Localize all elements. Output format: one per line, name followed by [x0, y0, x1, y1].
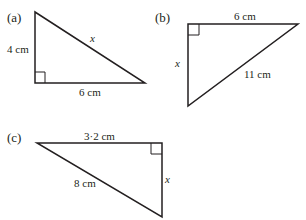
side-label-c-hypotenuse: 8 cm [74, 178, 96, 189]
side-label-c-vertical: x [165, 174, 170, 185]
part-label-c: (c) [7, 131, 21, 144]
side-label-b-hypotenuse: 11 cm [244, 69, 271, 80]
right-angle-marker-c [151, 143, 162, 154]
triangle-c [37, 143, 162, 217]
side-label-c-horizontal: 3·2 cm [84, 131, 115, 142]
side-label-a-horizontal: 6 cm [79, 87, 101, 98]
triangles-diagram [0, 0, 306, 220]
side-label-b-horizontal: 6 cm [234, 11, 256, 22]
triangle-b [188, 24, 298, 106]
side-label-b-vertical: x [175, 58, 180, 69]
part-label-b: (b) [155, 11, 170, 24]
right-angle-marker-b [188, 24, 199, 35]
triangle-a [35, 12, 145, 83]
side-label-a-vertical: 4 cm [7, 44, 29, 55]
part-label-a: (a) [7, 11, 21, 24]
side-label-a-hypotenuse: x [90, 33, 95, 44]
right-angle-marker-a [35, 72, 45, 83]
